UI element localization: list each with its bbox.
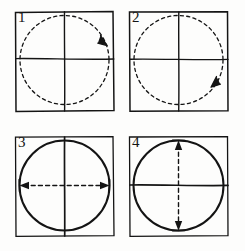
panel-4: 4 (128, 135, 230, 238)
panel-1-label: 1 (18, 10, 26, 25)
panel-2: 2 (128, 10, 230, 113)
figure-root: 1 2 (0, 0, 245, 251)
panel-3-label: 3 (18, 135, 26, 150)
horizontal-construction-line (130, 59, 228, 60)
arrow-head-down-icon (175, 221, 182, 231)
panel-4-label: 4 (132, 135, 140, 150)
panel-3: 3 (14, 135, 116, 238)
arrow-head-left-icon (19, 182, 29, 189)
arrow-head-right-icon (100, 182, 110, 189)
arrow-head-up-icon (175, 140, 182, 150)
horizontal-construction-line (16, 59, 114, 60)
panel-2-label: 2 (132, 10, 140, 25)
panel-1: 1 (14, 10, 116, 113)
